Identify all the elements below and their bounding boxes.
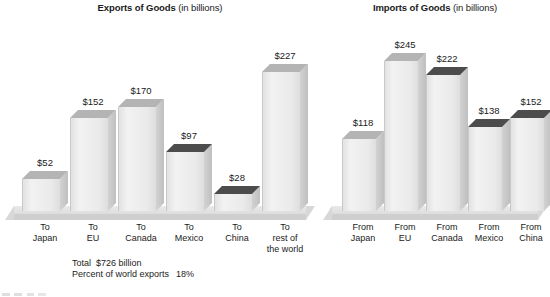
category-label-imports-4: From China: [502, 222, 550, 244]
bar-side-face: [300, 64, 308, 211]
bar-top-face: [22, 171, 68, 179]
bar-exports-1: $152: [70, 110, 108, 211]
bar-exports-2: $170: [118, 99, 156, 211]
bar-top-face: [70, 110, 116, 118]
imports-title-main: Imports of Goods: [373, 2, 451, 13]
exports-total-value: $726 billion: [96, 258, 142, 268]
bar-exports-4: $28: [214, 186, 252, 211]
bar-value-label-exports-4: $28: [229, 172, 245, 183]
bar-front-face: [70, 118, 109, 211]
bar-side-face: [204, 144, 212, 211]
bar-exports-0: $52: [22, 171, 60, 211]
bar-side-face: [108, 110, 116, 211]
bar-value-label-exports-0: $52: [37, 157, 53, 168]
bar-value-label-imports-4: $152: [520, 96, 541, 107]
exports-percent-label: Percent of world exports: [72, 269, 169, 279]
category-label-exports-5: To rest of the world: [254, 222, 316, 255]
exports-percent-value: 18%: [176, 269, 194, 279]
bar-value-label-imports-2: $222: [436, 53, 457, 64]
exports-category-labels: To JapanTo EUTo CanadaTo MexicoTo ChinaT…: [0, 222, 320, 260]
exports-summary: Total$726 billion Percent of world expor…: [72, 258, 194, 280]
bar-imports-1: $245: [384, 53, 418, 211]
bar-value-label-exports-2: $170: [130, 85, 151, 96]
bar-front-face: [22, 179, 61, 211]
bar-front-face: [468, 127, 503, 211]
exports-plot-area: $52$152$170$97$28$227: [0, 30, 320, 220]
bar-side-face: [156, 99, 164, 211]
bar-imports-4: $152: [510, 110, 544, 211]
imports-chart-panel: Imports of Goods (in billions) $118$245$…: [320, 0, 550, 297]
imports-title-sub: (in billions): [453, 2, 497, 13]
bar-top-face: [166, 144, 212, 152]
bar-exports-5: $227: [262, 64, 300, 211]
bar-value-label-imports-0: $118: [353, 117, 373, 128]
imports-chart-title: Imports of Goods (in billions): [320, 2, 550, 13]
bar-front-face: [384, 61, 419, 211]
bar-side-face: [544, 110, 550, 211]
bar-front-face: [118, 107, 157, 211]
exports-title-sub: (in billions): [178, 2, 222, 13]
bar-front-face: [426, 75, 461, 211]
bar-front-face: [166, 152, 205, 211]
bar-top-face: [510, 110, 550, 118]
bar-value-label-exports-5: $227: [274, 50, 295, 61]
bar-side-face: [376, 131, 384, 211]
bar-imports-2: $222: [426, 67, 460, 211]
bar-value-label-imports-1: $245: [394, 39, 415, 50]
exports-percent-row: Percent of world exports18%: [72, 269, 194, 280]
bar-top-face: [214, 186, 260, 194]
bar-front-face: [214, 194, 253, 211]
bar-side-face: [460, 67, 468, 211]
bar-side-face: [418, 53, 426, 211]
imports-plot-area: $118$245$222$138$152: [320, 30, 550, 220]
exports-total-label: Total: [72, 258, 91, 268]
bar-imports-0: $118: [342, 131, 376, 211]
exports-chart-panel: Exports of Goods (in billions) $52$152$1…: [0, 0, 320, 297]
exports-total-row: Total$726 billion: [72, 258, 194, 269]
exports-title-main: Exports of Goods: [98, 2, 176, 13]
imports-category-labels: From JapanFrom EUFrom CanadaFrom MexicoF…: [320, 222, 550, 260]
bar-top-face: [262, 64, 308, 72]
bar-value-label-exports-1: $152: [82, 96, 103, 107]
bar-top-face: [118, 99, 164, 107]
bar-value-label-exports-3: $97: [181, 130, 197, 141]
bar-exports-3: $97: [166, 144, 204, 211]
bar-front-face: [510, 118, 545, 211]
bar-value-label-imports-3: $138: [478, 105, 499, 116]
bar-side-face: [502, 119, 510, 211]
page-edge-artifact: [2, 293, 46, 296]
bar-front-face: [262, 72, 301, 211]
bar-front-face: [342, 139, 377, 211]
bar-imports-3: $138: [468, 119, 502, 211]
exports-chart-title: Exports of Goods (in billions): [0, 2, 320, 13]
